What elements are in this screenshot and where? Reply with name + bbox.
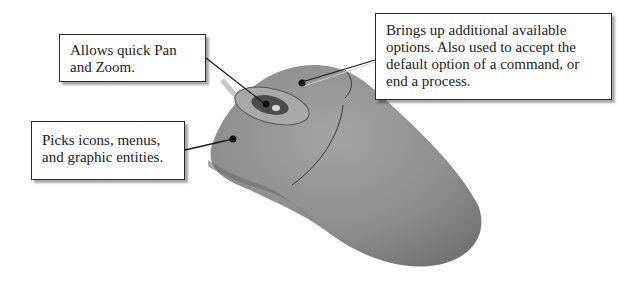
right-button-marker	[299, 80, 306, 87]
callout-right-button: Brings up additional available options. …	[375, 13, 612, 100]
left-button-marker	[230, 136, 237, 143]
middle-button-marker	[263, 101, 270, 108]
mouse-diagram: Allows quick Pan and Zoom. Picks icons, …	[0, 0, 642, 283]
callout-left-button: Picks icons, menus, and graphic entities…	[31, 121, 185, 180]
callout-middle-button: Allows quick Pan and Zoom.	[59, 34, 206, 82]
cable	[222, 80, 236, 96]
